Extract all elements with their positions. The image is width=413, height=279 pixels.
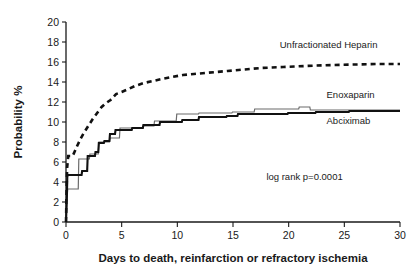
x-tick-label: 30 <box>394 229 406 241</box>
series-label-2: Abciximab <box>327 115 371 126</box>
y-tick-label: 20 <box>47 16 59 28</box>
y-tick-label: 0 <box>53 216 59 228</box>
chart-canvas: 02468101214161820051015202530Days to dea… <box>0 0 413 279</box>
series-curve-0 <box>66 64 400 222</box>
y-tick-label: 14 <box>47 76 59 88</box>
y-tick-label: 8 <box>53 136 59 148</box>
series-label-0: Unfractionated Heparin <box>280 39 378 50</box>
y-tick-label: 6 <box>53 156 59 168</box>
y-tick-label: 4 <box>53 176 59 188</box>
x-tick-label: 10 <box>171 229 183 241</box>
y-axis-title: Probability % <box>12 86 24 159</box>
series-label-1: Enoxaparin <box>327 89 375 100</box>
series-curve-2 <box>66 111 400 222</box>
kaplan-meier-chart: 02468101214161820051015202530Days to dea… <box>0 0 413 279</box>
y-tick-label: 12 <box>47 96 59 108</box>
x-tick-label: 25 <box>338 229 350 241</box>
x-tick-label: 0 <box>63 229 69 241</box>
y-tick-label: 2 <box>53 196 59 208</box>
y-tick-label: 16 <box>47 56 59 68</box>
y-tick-label: 10 <box>47 116 59 128</box>
x-axis-title: Days to death, reinfarction or refractor… <box>98 252 368 264</box>
y-tick-label: 18 <box>47 36 59 48</box>
annotation-log-rank: log rank p=0.0001 <box>266 171 342 182</box>
x-tick-label: 15 <box>227 229 239 241</box>
x-tick-label: 5 <box>119 229 125 241</box>
x-tick-label: 20 <box>283 229 295 241</box>
